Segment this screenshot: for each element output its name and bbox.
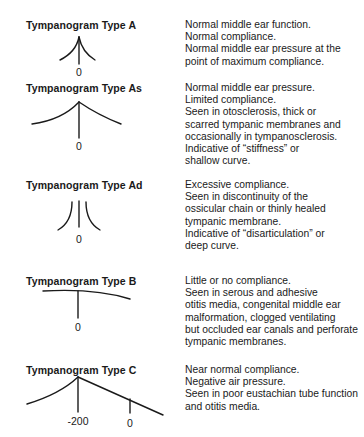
type-b-title: Tympanogram Type B: [26, 275, 137, 287]
type-a-axis-label: 0: [76, 66, 82, 78]
type-ad-description: Excessive compliance. Seen in discontinu…: [185, 179, 326, 252]
type-as-description: Normal middle ear pressure. Limited comp…: [185, 82, 341, 167]
description-line: ossicular chain or thinly healed: [185, 203, 326, 215]
description-line: and otitis media.: [185, 401, 358, 413]
description-line: Normal middle ear function.: [185, 19, 341, 31]
type-as-curve: [32, 102, 121, 138]
description-line: Normal middle ear pressure.: [185, 82, 341, 94]
description-line: Limited compliance.: [185, 94, 341, 106]
description-line: Normal compliance.: [185, 31, 341, 43]
description-line: Negative air pressure.: [185, 376, 358, 388]
type-c-title: Tympanogram Type C: [26, 364, 137, 376]
description-line: scarred tympanic membranes and: [185, 119, 341, 131]
description-line: tympanic membrane.: [185, 216, 326, 228]
description-line: shallow curve.: [185, 155, 341, 167]
description-line: Seen in poor eustachian tube function: [185, 388, 358, 400]
type-c-curve: [27, 377, 163, 415]
description-line: Seen in otosclerosis, thick or: [185, 106, 341, 118]
description-line: Normal middle ear pressure at the: [185, 43, 341, 55]
description-line: Excessive compliance.: [185, 179, 326, 191]
type-c-axis-label-neg200: -200: [67, 415, 88, 427]
description-line: Little or no compliance.: [185, 275, 358, 287]
type-c-description: Near normal compliance. Negative air pre…: [185, 364, 358, 413]
type-a-title: Tympanogram Type A: [26, 19, 136, 31]
type-a-curve: [60, 37, 95, 64]
description-line: Indicative of “disarticulation” or: [185, 228, 326, 240]
type-b-axis-label: 0: [75, 321, 81, 333]
description-line: malformation, clogged ventilating: [185, 312, 358, 324]
type-as-axis-label: 0: [76, 140, 82, 152]
type-b-curve: [43, 290, 130, 318]
type-b-description: Little or no compliance. Seen in serous …: [185, 275, 358, 348]
description-line: Near normal compliance.: [185, 364, 358, 376]
type-as-title: Tympanogram Type As: [26, 82, 142, 94]
type-c-axis-label-zero: 0: [127, 417, 133, 429]
type-a-description: Normal middle ear function. Normal compl…: [185, 19, 341, 68]
description-line: point of maximum compliance.: [185, 56, 341, 68]
type-ad-axis-label: 0: [76, 233, 82, 245]
type-ad-title: Tympanogram Type Ad: [26, 179, 143, 191]
description-line: occasionally in tympanosclerosis.: [185, 131, 341, 143]
description-line: but occluded ear canals and perforate: [185, 324, 358, 336]
type-ad-curve: [58, 201, 100, 230]
description-line: tympanic membranes.: [185, 336, 358, 348]
description-line: otitis media, congenital middle ear: [185, 299, 358, 311]
description-line: Indicative of “stiffness” or: [185, 143, 341, 155]
description-line: Seen in discontinuity of the: [185, 191, 326, 203]
description-line: Seen in serous and adhesive: [185, 287, 358, 299]
description-line: deep curve.: [185, 240, 326, 252]
